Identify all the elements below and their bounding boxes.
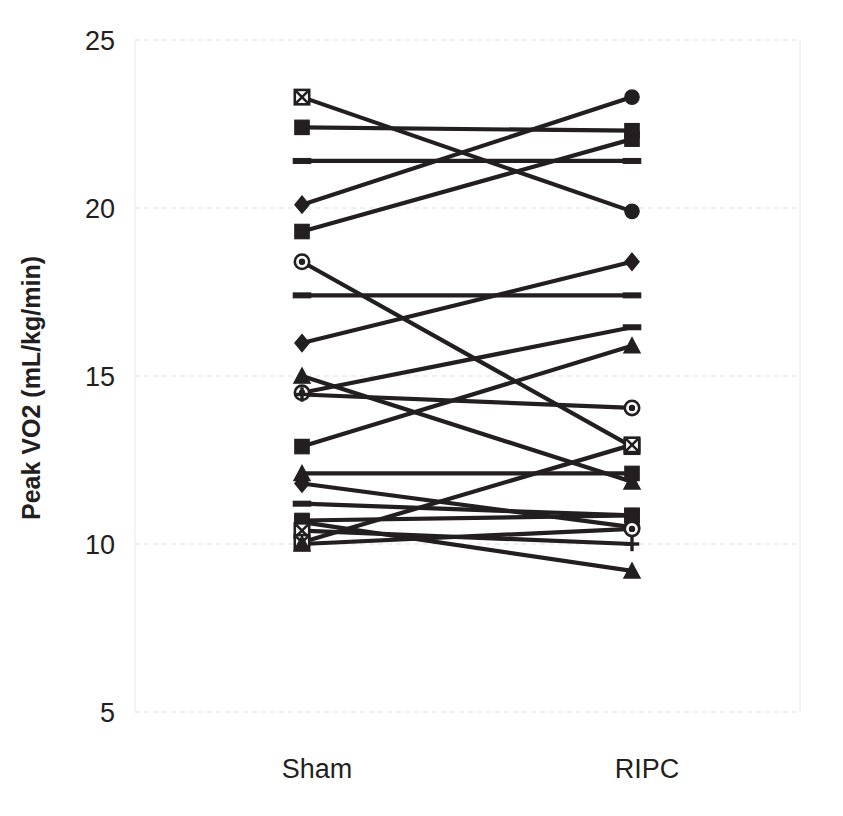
marker-diamond	[295, 196, 309, 213]
slope-line	[302, 445, 632, 542]
marker-square-filled	[295, 439, 309, 453]
x-axis-tick-labels: ShamRIPC	[282, 754, 680, 784]
marker-circle-filled	[625, 90, 639, 104]
marker-square-filled	[625, 466, 639, 480]
marker-dash	[293, 159, 310, 164]
marker-circle-filled	[625, 204, 639, 218]
marker-dash	[293, 501, 310, 506]
slope-line	[302, 262, 632, 447]
chart-container: 510152025 ShamRIPC Peak VO2 (mL/kg/min)	[0, 0, 843, 816]
marker-square-filled	[295, 224, 309, 238]
marker-plus	[625, 537, 639, 551]
marker-diamond	[295, 334, 309, 351]
marker-dash	[293, 293, 310, 298]
slope-line	[302, 262, 632, 343]
marker-diamond	[625, 253, 639, 270]
marker-square-filled	[295, 120, 309, 134]
marker-circle-open	[625, 401, 639, 415]
marker-square-x	[295, 90, 309, 104]
slope-lines	[302, 97, 632, 571]
marker-dash	[623, 159, 640, 164]
marker-triangle	[624, 338, 640, 353]
y-axis-tick-label: 25	[85, 26, 115, 56]
marker-square-filled	[625, 132, 639, 146]
y-axis-tick-label: 20	[85, 194, 115, 224]
slope-chart-svg: 510152025 ShamRIPC Peak VO2 (mL/kg/min)	[0, 0, 843, 816]
y-axis-tick-label: 5	[100, 698, 115, 728]
slope-line	[302, 376, 632, 482]
marker-circle-open	[295, 255, 309, 269]
marker-circle-open	[625, 522, 639, 536]
y-axis-tick-label: 15	[85, 362, 115, 392]
y-axis-title: Peak VO2 (mL/kg/min)	[17, 256, 45, 520]
x-axis-tick-label-sham: Sham	[282, 754, 353, 784]
y-axis-tick-labels: 510152025	[85, 26, 115, 728]
marker-dash	[623, 293, 640, 298]
marker-dash	[623, 325, 640, 330]
y-axis-tick-label: 10	[85, 530, 115, 560]
slope-line	[302, 127, 632, 130]
marker-square-x	[625, 438, 639, 452]
gridlines	[135, 40, 800, 712]
x-axis-tick-label-ripc: RIPC	[615, 754, 680, 784]
